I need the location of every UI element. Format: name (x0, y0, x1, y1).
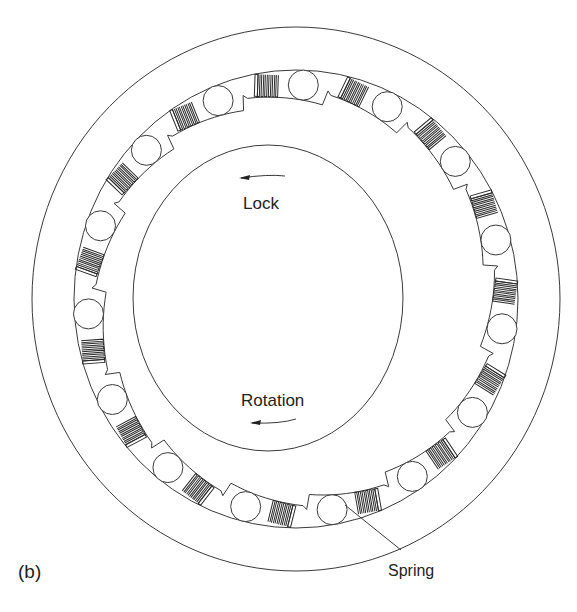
roller (131, 135, 161, 165)
spring (414, 118, 446, 150)
rotation-label: Rotation (241, 391, 304, 410)
spring-coil (268, 500, 293, 526)
roller (487, 314, 517, 344)
spring-label: Spring (388, 562, 434, 579)
roller (74, 299, 104, 329)
spring (170, 102, 200, 131)
roller (288, 70, 318, 100)
spring (81, 339, 105, 364)
lock-arrowhead (239, 175, 250, 180)
spring (493, 278, 518, 304)
spring (355, 488, 382, 514)
spring-end-plate (254, 74, 258, 96)
spring-coil (257, 74, 278, 97)
outer-ring (32, 27, 560, 571)
spring-coil (108, 163, 138, 193)
roller (97, 385, 127, 415)
roller (203, 86, 233, 116)
panel-label: (b) (18, 561, 41, 582)
spring (426, 438, 458, 469)
spring-coil (426, 440, 455, 470)
spring (182, 474, 214, 506)
spring-coil (416, 120, 446, 150)
spring (106, 163, 138, 195)
diagram-canvas: Lock Rotation Spring (b) (0, 0, 577, 612)
roller (481, 225, 511, 255)
spring-leader-line (345, 505, 401, 550)
spring-coil (493, 281, 518, 304)
lock-label: Lock (243, 194, 279, 213)
roller (372, 92, 402, 122)
rollers-group (74, 70, 518, 525)
spring-end-plate (288, 505, 296, 527)
spring (254, 74, 278, 97)
roller-clutch-diagram: Lock Rotation Spring (b) (0, 0, 577, 612)
roller (440, 146, 470, 176)
spring-coil (471, 193, 498, 219)
roller (317, 495, 347, 525)
roller (231, 492, 261, 522)
spring-coil (81, 339, 104, 361)
spring-end-plate (83, 359, 105, 364)
spring (75, 247, 104, 276)
roller (153, 453, 183, 483)
spring (116, 417, 146, 448)
rings-group (32, 27, 560, 571)
spring (475, 364, 506, 395)
roller (457, 397, 487, 427)
roller (86, 211, 116, 241)
roller (397, 461, 427, 491)
rotation-arrowhead (250, 420, 261, 425)
